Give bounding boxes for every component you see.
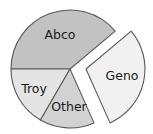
label-geno: Geno [106, 68, 139, 83]
pie-chart: Abco Troy Other Geno [0, 0, 153, 134]
label-other: Other [51, 99, 87, 114]
label-troy: Troy [20, 81, 47, 96]
label-abco: Abco [44, 27, 75, 42]
